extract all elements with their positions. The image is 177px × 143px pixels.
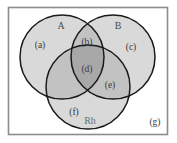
set-label-rh: Rh — [84, 115, 96, 126]
venn-diagram-figure: A B Rh (a) (b) (c) (d) (e) (f) (g) — [0, 0, 177, 143]
set-label-b: B — [115, 20, 122, 31]
region-label-b: (b) — [81, 37, 92, 48]
venn-diagram-canvas: A B Rh (a) (b) (c) (d) (e) (f) (g) — [0, 0, 177, 143]
region-label-f: (f) — [69, 107, 79, 118]
region-label-e: (e) — [105, 80, 116, 91]
region-label-c: (c) — [126, 42, 137, 53]
region-label-a: (a) — [35, 40, 46, 51]
set-label-a: A — [57, 20, 65, 31]
region-label-g: (g) — [149, 117, 160, 128]
region-label-d: (d) — [81, 64, 92, 75]
